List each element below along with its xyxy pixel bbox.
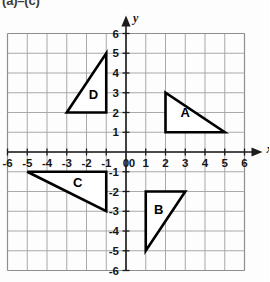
y-tick-label: 3 — [113, 87, 119, 99]
x-tick-label: 2 — [162, 157, 168, 169]
y-tick-label: -3 — [109, 205, 119, 217]
y-axis-label: y — [131, 11, 139, 25]
y-tick-label: -1 — [109, 166, 120, 178]
y-tick-label: 4 — [113, 67, 120, 79]
coordinate-plane-svg: -6-5-4-3-2-10123456654321-1-2-3-4-5-60xy… — [0, 0, 269, 282]
x-tick-label: -6 — [2, 157, 12, 169]
origin-label: 0 — [129, 157, 135, 169]
x-tick-label: 3 — [182, 157, 188, 169]
y-tick-label: -5 — [109, 245, 120, 257]
y-tick-label: 5 — [113, 47, 120, 59]
y-tick-label: -6 — [109, 265, 119, 277]
y-tick-label: 6 — [113, 28, 119, 40]
y-axis-arrow-icon — [121, 16, 130, 27]
x-tick-label: -5 — [22, 157, 33, 169]
x-tick-label: 1 — [143, 157, 150, 169]
y-tick-label: 1 — [113, 126, 120, 138]
y-tick-label: 2 — [113, 107, 119, 119]
x-axis-arrow-icon — [252, 147, 263, 156]
x-axis-label: x — [266, 142, 270, 156]
y-tick-label: -2 — [109, 186, 119, 198]
x-tick-label: -2 — [81, 157, 91, 169]
triangle-label-d: D — [89, 87, 98, 102]
x-tick-label: 5 — [222, 157, 229, 169]
x-tick-label: 6 — [241, 157, 247, 169]
triangle-label-a: A — [181, 105, 191, 120]
triangle-label-c: C — [73, 175, 83, 190]
x-tick-label: -3 — [62, 157, 72, 169]
y-tick-label: -4 — [109, 225, 120, 237]
x-tick-label: -4 — [42, 157, 53, 169]
coordinate-plane-figure: -6-5-4-3-2-10123456654321-1-2-3-4-5-60xy… — [0, 0, 269, 282]
x-tick-label: 4 — [202, 157, 209, 169]
triangle-label-b: B — [154, 202, 163, 217]
